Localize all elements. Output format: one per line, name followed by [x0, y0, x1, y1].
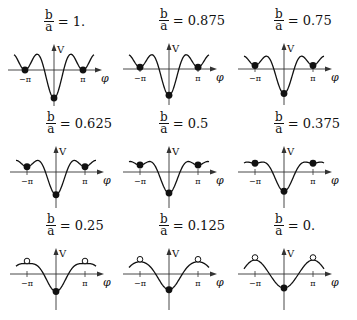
x-axis-label: φ — [216, 174, 224, 187]
y-axis-label: V — [286, 248, 295, 259]
stable-minimum-dot — [281, 188, 288, 195]
unstable-point-open-circle — [252, 255, 258, 261]
stable-minimum-dot — [166, 92, 173, 99]
tick-label-pos-pi: π — [310, 177, 315, 186]
y-axis-arrow-icon — [52, 44, 57, 51]
unstable-point-open-circle — [24, 258, 30, 264]
x-axis-label: φ — [216, 71, 224, 84]
tick-label-pos-pi: π — [310, 74, 315, 83]
potential-panel: ba= 0.125Vφ−ππ — [114, 214, 229, 314]
metastable-minimum-dot — [195, 64, 202, 71]
potential-plot: Vφ−ππ — [114, 112, 229, 212]
y-axis-arrow-icon — [54, 146, 59, 153]
stable-minimum-dot — [53, 288, 60, 295]
metastable-minimum-dot — [80, 67, 87, 74]
metastable-minimum-dot — [195, 162, 202, 169]
stable-minimum-dot — [281, 90, 288, 97]
unstable-point-open-circle — [137, 256, 143, 262]
y-axis-label: V — [286, 43, 295, 54]
potential-panel: ba= 0.5Vφ−ππ — [114, 112, 229, 212]
tick-label-pos-pi: π — [195, 74, 200, 83]
y-axis-label: V — [171, 248, 180, 259]
y-axis-arrow-icon — [282, 146, 287, 153]
potential-plot: Vφ−ππ — [1, 112, 116, 212]
unstable-point-open-circle — [310, 255, 316, 261]
x-axis-label: φ — [103, 276, 111, 289]
y-axis-arrow-icon — [54, 248, 59, 255]
potential-panel: ba= 0.625Vφ−ππ — [1, 112, 116, 212]
tick-label-neg-pi: −π — [249, 279, 261, 288]
unstable-point-open-circle — [82, 258, 88, 264]
tick-label-pos-pi: π — [80, 75, 85, 84]
tick-label-neg-pi: −π — [21, 279, 33, 288]
stable-minimum-dot — [166, 286, 173, 293]
tick-label-pos-pi: π — [195, 177, 200, 186]
metastable-minimum-dot — [310, 160, 317, 167]
figure-grid: ba= 1.Vφ−ππba= 0.875Vφ−ππba= 0.75Vφ−ππba… — [0, 0, 357, 320]
metastable-minimum-dot — [310, 62, 317, 69]
stable-minimum-dot — [51, 95, 58, 102]
potential-panel: ba= 0.25Vφ−ππ — [1, 214, 116, 314]
y-axis-arrow-icon — [167, 146, 172, 153]
tick-label-pos-pi: π — [82, 279, 87, 288]
tick-label-pos-pi: π — [195, 279, 200, 288]
tick-label-neg-pi: −π — [19, 75, 31, 84]
x-axis-label: φ — [103, 174, 111, 187]
tick-label-pos-pi: π — [310, 279, 315, 288]
stable-minimum-dot — [166, 190, 173, 197]
potential-panel: ba= 1.Vφ−ππ — [0, 10, 114, 110]
y-axis-arrow-icon — [282, 43, 287, 50]
stable-minimum-dot — [53, 191, 60, 198]
potential-plot: Vφ−ππ — [229, 9, 344, 109]
x-axis-label: φ — [331, 71, 339, 84]
y-axis-arrow-icon — [282, 248, 287, 255]
x-axis-label: φ — [331, 276, 339, 289]
potential-plot: Vφ−ππ — [229, 214, 344, 314]
stable-minimum-dot — [281, 285, 288, 292]
potential-plot: Vφ−ππ — [1, 214, 116, 314]
metastable-minimum-dot — [22, 67, 29, 74]
metastable-minimum-dot — [82, 163, 89, 170]
tick-label-pos-pi: π — [82, 177, 87, 186]
metastable-minimum-dot — [137, 162, 144, 169]
potential-plot: Vφ−ππ — [114, 9, 229, 109]
y-axis-label: V — [171, 43, 180, 54]
potential-panel: ba= 0.375Vφ−ππ — [229, 112, 344, 212]
x-axis-label: φ — [101, 72, 109, 85]
y-axis-label: V — [286, 146, 295, 157]
metastable-minimum-dot — [137, 64, 144, 71]
tick-label-neg-pi: −π — [21, 177, 33, 186]
potential-plot: Vφ−ππ — [0, 10, 114, 110]
metastable-minimum-dot — [252, 160, 259, 167]
metastable-minimum-dot — [252, 62, 259, 69]
potential-plot: Vφ−ππ — [114, 214, 229, 314]
y-axis-label: V — [58, 248, 67, 259]
tick-label-neg-pi: −π — [134, 279, 146, 288]
x-axis-label: φ — [216, 276, 224, 289]
potential-plot: Vφ−ππ — [229, 112, 344, 212]
tick-label-neg-pi: −π — [249, 74, 261, 83]
potential-panel: ba= 0.75Vφ−ππ — [229, 9, 344, 109]
y-axis-arrow-icon — [167, 43, 172, 50]
tick-label-neg-pi: −π — [249, 177, 261, 186]
potential-panel: ba= 0.875Vφ−ππ — [114, 9, 229, 109]
y-axis-label: V — [56, 44, 65, 55]
y-axis-label: V — [58, 146, 67, 157]
unstable-point-open-circle — [195, 256, 201, 262]
y-axis-arrow-icon — [167, 248, 172, 255]
tick-label-neg-pi: −π — [134, 74, 146, 83]
metastable-minimum-dot — [24, 163, 31, 170]
y-axis-label: V — [171, 146, 180, 157]
x-axis-label: φ — [331, 174, 339, 187]
potential-panel: ba= 0.Vφ−ππ — [229, 214, 344, 314]
tick-label-neg-pi: −π — [134, 177, 146, 186]
